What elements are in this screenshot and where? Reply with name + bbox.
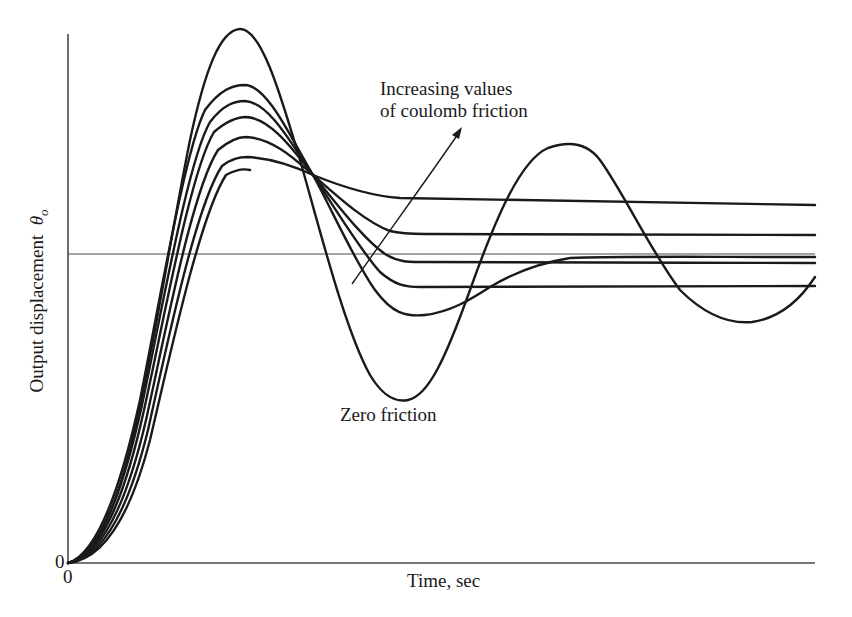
x-axis-label: Time, sec [407, 570, 480, 592]
curve-friction-3 [68, 117, 815, 563]
annotation-zero-friction: Zero friction [340, 404, 437, 426]
arrowhead-icon [452, 127, 462, 139]
y-axis-label: Output displacement θo [24, 166, 54, 436]
annotation-increasing-friction-line2: of coulomb friction [380, 100, 528, 122]
curve-friction-2 [68, 101, 815, 563]
x-origin-label: 0 [63, 566, 73, 588]
annotation-increasing-friction-line1: Increasing values [380, 78, 512, 100]
theta-subscript: o [36, 209, 51, 216]
curve-friction-6 [68, 169, 250, 563]
theta-symbol: θ [26, 216, 47, 225]
y-axis-label-text: Output displacement [26, 235, 47, 393]
